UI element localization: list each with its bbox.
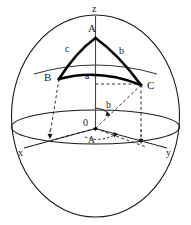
dashed-drop-b [50,79,59,134]
vertex-label-a: A [88,23,96,34]
arrowhead-x-projection [48,134,53,139]
spherical-triangle-figure: z A B C c b a b 0 A x y [0,0,191,225]
side-label-b: b [119,46,124,56]
angle-label-capital-a: A [88,136,95,146]
side-label-a: a [85,71,89,81]
vertex-label-c: C [147,80,154,91]
dashed-radius-oc [96,85,142,129]
axis-label-x: x [18,148,23,158]
vertex-dot-b [57,77,60,80]
vertex-dot-c [139,83,142,86]
arc-side-a [59,75,141,85]
angle-label-b: b [106,101,111,111]
axis-label-z: z [92,4,96,14]
vertex-dot-a [94,36,97,39]
origin-dot [94,127,97,130]
axis-label-y: y [166,148,171,158]
side-label-c: c [65,44,69,54]
origin-label: 0 [83,118,88,128]
vertex-label-b: B [44,72,51,83]
